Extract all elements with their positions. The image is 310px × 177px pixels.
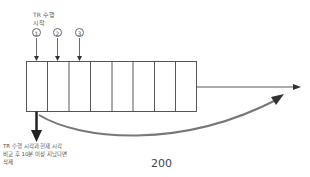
delete-label-line2: 비교 후 10분 이상 지났다면	[3, 150, 67, 158]
queue-cells	[27, 62, 197, 112]
delete-label: TR 수행 시각과 현재 시각 비교 후 10분 이상 지났다면 삭제	[3, 142, 67, 166]
delete-label-line3: 삭제	[3, 158, 67, 166]
delete-label-line1: TR 수행 시각과 현재 시각	[3, 142, 67, 150]
marker-arrows	[37, 38, 80, 58]
recycle-curve	[39, 99, 278, 136]
figure-number: 200	[151, 157, 172, 170]
